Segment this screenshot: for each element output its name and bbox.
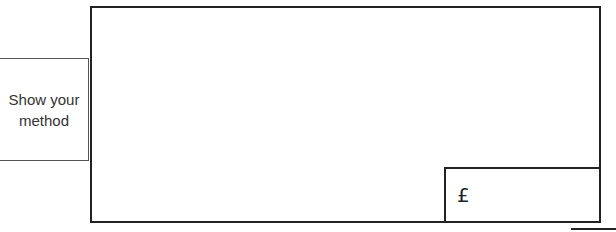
show-method-line-2: method [19,112,69,129]
show-method-line-1: Show your [9,91,80,108]
show-method-label-box: Show your method [0,58,89,161]
currency-symbol: £ [457,183,470,207]
next-section-edge [571,228,616,230]
answer-box[interactable]: £ [444,167,601,223]
show-method-label: Show your method [9,89,80,131]
